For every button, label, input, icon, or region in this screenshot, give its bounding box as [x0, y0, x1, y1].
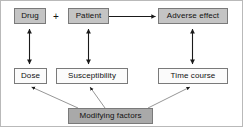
node-patient-label: Patient: [76, 12, 102, 20]
node-modifying-factors[interactable]: Modifying factors: [68, 108, 153, 124]
node-dose-label: Dose: [21, 72, 40, 80]
node-adverse-effect[interactable]: Adverse effect: [158, 8, 228, 24]
node-drug-label: Drug: [21, 12, 39, 20]
node-patient[interactable]: Patient: [68, 8, 109, 24]
plus-operator: +: [53, 12, 59, 22]
node-susceptibility-label: Susceptibility: [68, 72, 116, 80]
node-susceptibility[interactable]: Susceptibility: [56, 68, 128, 84]
node-drug[interactable]: Drug: [14, 8, 46, 24]
edge-modifying-factors-susceptibility: [90, 87, 105, 108]
node-modifying-factors-label: Modifying factors: [79, 112, 141, 120]
node-time-course[interactable]: Time course: [158, 68, 228, 84]
node-adverse-effect-label: Adverse effect: [167, 12, 219, 20]
node-dose[interactable]: Dose: [14, 68, 47, 84]
edge-modifying-factors-time-course: [148, 87, 190, 108]
node-time-course-label: Time course: [171, 72, 216, 80]
diagram-canvas: Drug + Patient Adverse effect Dose Susce…: [0, 0, 244, 128]
edge-modifying-factors-dose: [32, 87, 79, 108]
